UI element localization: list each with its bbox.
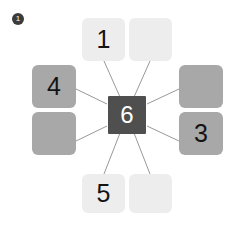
tile-top-left-label: 1 bbox=[97, 27, 111, 52]
step-number-badge: 1 bbox=[12, 13, 24, 25]
tile-bottom-left-label: 5 bbox=[97, 181, 111, 206]
tile-right-top[interactable] bbox=[179, 65, 223, 108]
tile-top-left[interactable]: 1 bbox=[82, 18, 125, 61]
hub-to-bottom-right bbox=[134, 133, 150, 174]
diagram-canvas: 1 1435 6 bbox=[0, 0, 241, 225]
tile-left-bottom[interactable] bbox=[32, 112, 76, 155]
hub-to-left-bottom bbox=[76, 126, 107, 141]
center-hub-tile[interactable]: 6 bbox=[108, 96, 146, 134]
tile-bottom-left[interactable]: 5 bbox=[82, 174, 125, 213]
tile-left-top[interactable]: 4 bbox=[32, 65, 76, 108]
hub-to-right-top bbox=[147, 89, 179, 104]
tile-right-bottom[interactable]: 3 bbox=[179, 112, 223, 155]
hub-to-bottom-left bbox=[104, 133, 120, 174]
tile-bottom-right[interactable] bbox=[129, 174, 172, 213]
hub-to-top-right bbox=[134, 61, 150, 97]
tile-right-bottom-label: 3 bbox=[194, 121, 208, 146]
center-hub-label: 6 bbox=[120, 103, 133, 127]
hub-to-top-left bbox=[104, 61, 120, 97]
hub-to-right-bottom bbox=[147, 126, 179, 141]
hub-to-left-top bbox=[76, 89, 107, 104]
tile-top-right[interactable] bbox=[129, 18, 172, 61]
tile-left-top-label: 4 bbox=[47, 74, 61, 99]
